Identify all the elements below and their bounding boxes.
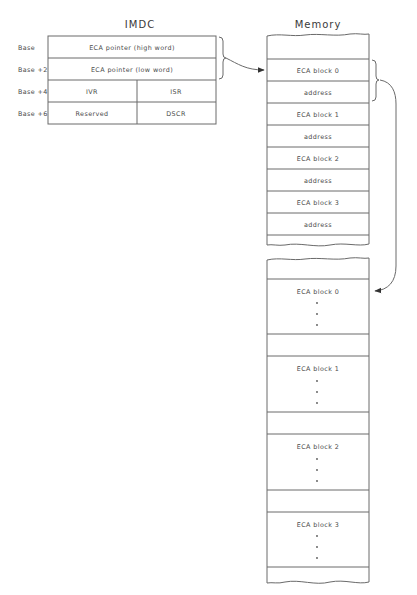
register-cell: ECA pointer (high word) bbox=[89, 44, 175, 52]
memory-cell: ECA block 3 bbox=[297, 199, 339, 207]
pointer-arrow bbox=[226, 58, 264, 70]
memory-title: Memory bbox=[295, 19, 342, 30]
brace-icon bbox=[219, 37, 226, 79]
offset-label: Base +4 bbox=[18, 88, 48, 96]
memory-cell: address bbox=[304, 221, 332, 229]
eca-block-label: ECA block 1 bbox=[297, 365, 339, 373]
memory-cell: ECA block 1 bbox=[297, 111, 339, 119]
register-cell: DSCR bbox=[166, 110, 186, 118]
eca-block-label: ECA block 3 bbox=[297, 521, 339, 529]
register-cell: Reserved bbox=[76, 110, 109, 118]
eca-memory-diagram: IMDC Base Base +2 Base +4 Base +6 ECA po… bbox=[0, 0, 417, 595]
imdc-title: IMDC bbox=[125, 19, 155, 30]
register-cell: ISR bbox=[170, 88, 182, 96]
offset-label: Base +6 bbox=[18, 110, 48, 118]
memory-eca-blocks: ECA block 0 ECA block 1 ECA block 2 ECA … bbox=[267, 258, 369, 584]
memory-cell: address bbox=[304, 89, 332, 97]
memory-cell: address bbox=[304, 133, 332, 141]
memory-cell: ECA block 0 bbox=[297, 67, 339, 75]
memory-cell: address bbox=[304, 177, 332, 185]
brace-icon bbox=[372, 60, 379, 101]
register-cell: ECA pointer (low word) bbox=[91, 66, 173, 74]
address-arrow bbox=[375, 80, 396, 291]
offset-label: Base bbox=[18, 44, 35, 52]
memory-cell: ECA block 2 bbox=[297, 155, 339, 163]
offset-label: Base +2 bbox=[18, 66, 48, 74]
register-cell: IVR bbox=[86, 88, 98, 96]
eca-block-label: ECA block 0 bbox=[297, 288, 339, 296]
memory-pointer-table: ECA block 0 address ECA block 1 address … bbox=[267, 34, 369, 246]
imdc-register-table: Base Base +2 Base +4 Base +6 ECA pointer… bbox=[18, 36, 216, 124]
eca-block-label: ECA block 2 bbox=[297, 443, 339, 451]
